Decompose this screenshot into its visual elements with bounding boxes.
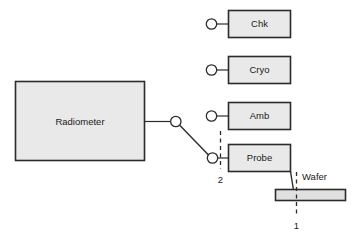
wafer-label: Wafer <box>302 171 327 182</box>
diagram-canvas: Radiometer Chk Cryo Amb <box>0 0 361 244</box>
probe-port: Probe <box>218 145 291 172</box>
probe-label: Probe <box>247 152 272 163</box>
diagram-svg: Radiometer Chk Cryo Amb <box>0 0 361 244</box>
amb-label: Amb <box>250 110 270 121</box>
probe-terminal-circle[interactable] <box>207 153 217 163</box>
radiometer-label: Radiometer <box>55 116 104 127</box>
radiometer-block: Radiometer <box>16 82 145 161</box>
reference-plane-1-label: 1 <box>294 220 299 231</box>
chk-terminal-circle[interactable] <box>206 19 216 29</box>
cryo-terminal-circle[interactable] <box>206 65 216 75</box>
switch-arm-line <box>180 126 209 156</box>
amb-terminal-circle[interactable] <box>206 111 216 121</box>
switch-pivot-circle[interactable] <box>171 116 181 126</box>
reference-plane-2-label: 2 <box>218 174 223 185</box>
amb-port: Amb <box>206 103 290 130</box>
chk-label: Chk <box>251 18 268 29</box>
probe-tip-line <box>291 172 294 191</box>
wafer-bar <box>276 190 346 201</box>
chk-port: Chk <box>206 11 290 38</box>
cryo-port: Cryo <box>206 57 290 84</box>
cryo-label: Cryo <box>249 64 269 75</box>
